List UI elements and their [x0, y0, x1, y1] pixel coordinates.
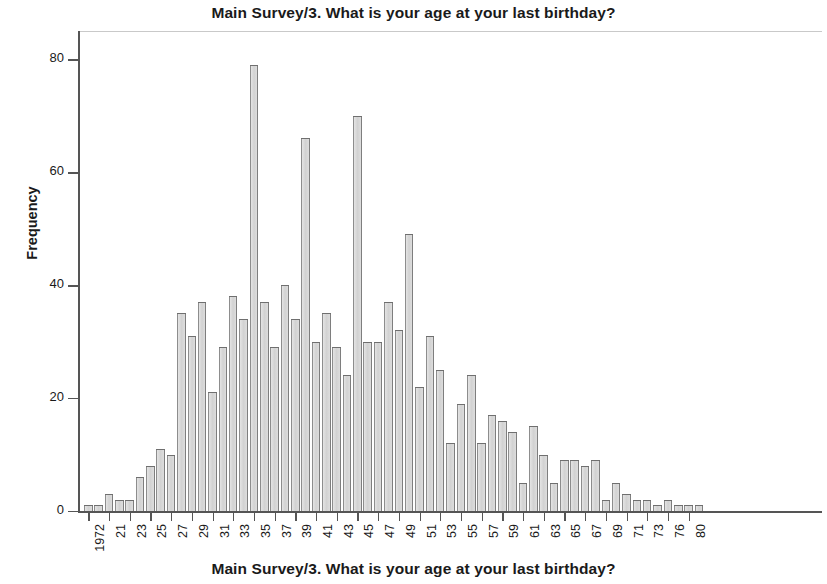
histogram-bar — [332, 347, 341, 511]
x-axis-tick-label: 47 — [383, 524, 397, 538]
x-axis-tick-label: 80 — [694, 524, 708, 538]
x-axis-tick — [606, 512, 607, 521]
histogram-bar — [146, 466, 155, 511]
x-axis-tick-label: 76 — [673, 524, 687, 538]
x-axis-tick-label: 49 — [404, 524, 418, 538]
histogram-bar — [84, 505, 93, 511]
x-axis-tick-label: 43 — [342, 524, 356, 538]
x-axis-tick — [88, 512, 89, 521]
histogram-bar — [529, 426, 538, 511]
histogram-bar — [343, 375, 352, 511]
x-axis-tick — [440, 512, 441, 521]
histogram-bar — [405, 234, 414, 511]
y-axis-tick-label: 20 — [2, 389, 64, 404]
histogram-bar — [653, 505, 662, 511]
histogram-bar — [591, 460, 600, 511]
histogram-bar — [94, 505, 103, 511]
x-axis-tick-label: 65 — [569, 524, 583, 538]
histogram-bar — [550, 483, 559, 511]
histogram-bar — [301, 138, 310, 511]
x-axis-tick — [109, 512, 110, 521]
histogram-figure: Main Survey/3. What is your age at your … — [0, 0, 827, 584]
histogram-bar — [457, 404, 466, 511]
histogram-bar — [105, 494, 114, 511]
histogram-bar — [436, 370, 445, 511]
histogram-bar — [498, 421, 507, 511]
x-axis-tick-label: 25 — [155, 524, 169, 538]
histogram-bar — [560, 460, 569, 511]
x-axis-tick-label: 71 — [632, 524, 646, 538]
histogram-bar — [291, 319, 300, 511]
x-axis-tick-label: 41 — [321, 524, 335, 538]
histogram-bar — [208, 392, 217, 511]
x-axis-tick-label: 59 — [507, 524, 521, 538]
histogram-bar — [177, 313, 186, 511]
x-axis-tick — [461, 512, 462, 521]
x-axis-tick-label: 23 — [135, 524, 149, 538]
x-axis-title: Main Survey/3. What is your age at your … — [0, 560, 827, 578]
histogram-bar — [570, 460, 579, 511]
x-axis-tick — [254, 512, 255, 521]
histogram-bar — [684, 505, 693, 511]
histogram-bar — [674, 505, 683, 511]
x-axis-tick — [689, 512, 690, 521]
x-axis-tick-label: 37 — [280, 524, 294, 538]
x-axis-tick-label: 69 — [611, 524, 625, 538]
histogram-bar — [167, 455, 176, 511]
x-axis-tick-label: 31 — [218, 524, 232, 538]
histogram-bar — [125, 500, 134, 511]
x-axis-tick-label: 67 — [590, 524, 604, 538]
bars-layer — [78, 31, 822, 511]
x-axis-tick — [399, 512, 400, 521]
x-axis-tick-label: 33 — [238, 524, 252, 538]
x-axis-tick — [150, 512, 151, 521]
x-axis-tick — [171, 512, 172, 521]
histogram-bar — [539, 455, 548, 511]
histogram-bar — [270, 347, 279, 511]
histogram-bar — [156, 449, 165, 511]
x-axis-tick — [295, 512, 296, 521]
histogram-bar — [281, 285, 290, 511]
x-axis-tick-label: 57 — [487, 524, 501, 538]
histogram-bar — [136, 477, 145, 511]
x-axis-tick — [420, 512, 421, 521]
histogram-bar — [374, 342, 383, 511]
y-axis-tick-label: 80 — [2, 50, 64, 65]
x-axis-tick-label: 45 — [362, 524, 376, 538]
histogram-bar — [353, 116, 362, 511]
x-axis-tick-label: 55 — [466, 524, 480, 538]
histogram-bar — [622, 494, 631, 511]
histogram-bar — [612, 483, 621, 511]
histogram-bar — [115, 500, 124, 511]
x-axis-tick — [564, 512, 565, 521]
x-axis-tick — [213, 512, 214, 521]
histogram-bar — [219, 347, 228, 511]
histogram-bar — [322, 313, 331, 511]
histogram-bar — [581, 466, 590, 511]
x-axis-tick — [647, 512, 648, 521]
x-axis-tick-label: 73 — [652, 524, 666, 538]
x-axis-tick-label: 21 — [114, 524, 128, 538]
page-title: Main Survey/3. What is your age at your … — [0, 4, 827, 22]
y-axis-tick-label: 0 — [2, 502, 64, 517]
x-axis-tick-label: 39 — [300, 524, 314, 538]
y-axis-tick-label: 60 — [2, 163, 64, 178]
x-axis-tick — [357, 512, 358, 521]
x-axis-tick — [378, 512, 379, 521]
histogram-bar — [664, 500, 673, 511]
x-axis-tick — [192, 512, 193, 521]
x-axis-tick — [544, 512, 545, 521]
histogram-bar — [250, 65, 259, 511]
histogram-bar — [415, 387, 424, 511]
x-axis-tick-label: 35 — [259, 524, 273, 538]
histogram-bar — [198, 302, 207, 511]
x-axis-tick-label: 53 — [445, 524, 459, 538]
histogram-bar — [446, 443, 455, 511]
x-axis-tick-label: 27 — [176, 524, 190, 538]
histogram-bar — [467, 375, 476, 511]
histogram-bar — [239, 319, 248, 511]
histogram-bar — [363, 342, 372, 511]
x-axis-tick — [316, 512, 317, 521]
x-axis-tick — [337, 512, 338, 521]
histogram-bar — [519, 483, 528, 511]
